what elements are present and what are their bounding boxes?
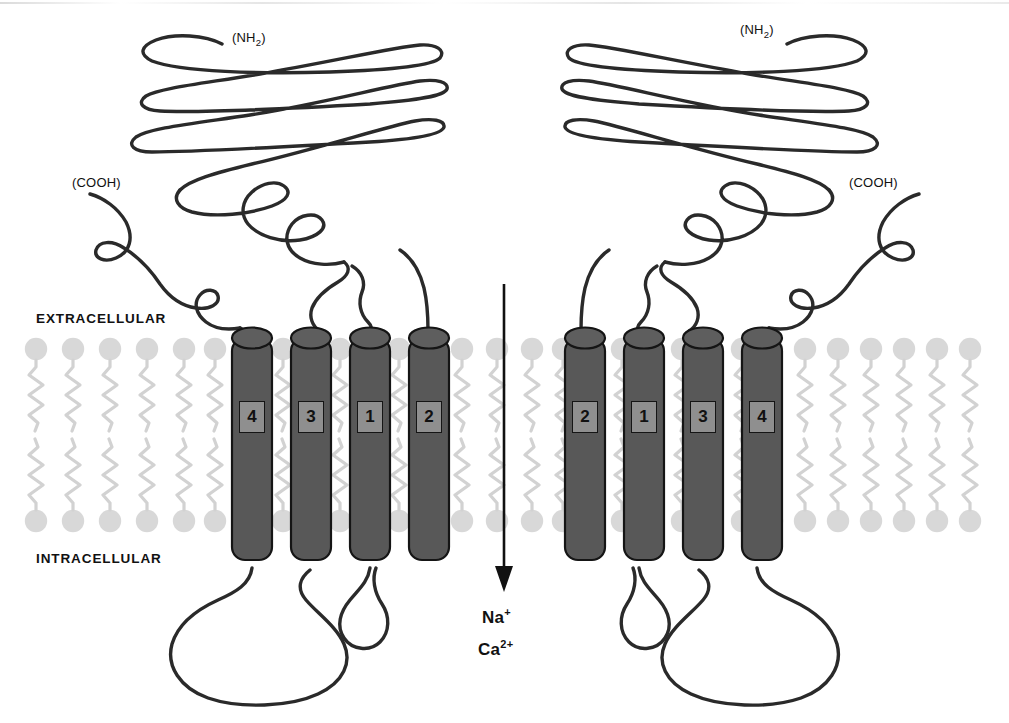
ion-label-sodium: Na+ bbox=[482, 606, 511, 628]
nh2-prefix-left: (NH bbox=[232, 30, 256, 45]
intracellular-label: INTRACELLULAR bbox=[36, 551, 162, 566]
extracellular-label: EXTRACELLULAR bbox=[36, 311, 166, 326]
calcium-charge: 2+ bbox=[500, 638, 513, 650]
nh2-terminal-label-right: (NH2) bbox=[740, 22, 774, 40]
figure-canvas: 4 3 1 2 2 1 3 4 EXTRACELLULAR INTRACELLU… bbox=[0, 0, 1009, 723]
nh2-prefix-right: (NH bbox=[740, 22, 764, 37]
calcium-symbol: Ca bbox=[478, 640, 500, 659]
cooh-terminal-label-left: (COOH) bbox=[72, 175, 121, 190]
cooh-terminal-label-right: (COOH) bbox=[849, 175, 898, 190]
nh2-suffix-left: ) bbox=[261, 30, 266, 45]
ion-label-calcium: Ca2+ bbox=[478, 638, 514, 660]
nh2-suffix-right: ) bbox=[769, 22, 774, 37]
nh2-terminal-label-left: (NH2) bbox=[232, 30, 266, 48]
sodium-charge: + bbox=[504, 606, 511, 618]
sodium-symbol: Na bbox=[482, 608, 504, 627]
